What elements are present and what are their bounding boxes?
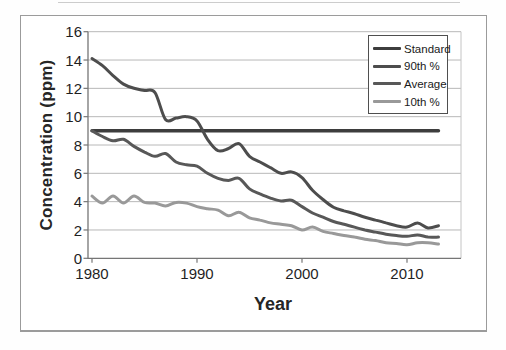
legend-line-sample-10th-: [373, 100, 401, 103]
x-tick-label-2000: 2000: [272, 265, 332, 282]
y-tick-label-12: 12: [42, 80, 82, 97]
y-tick-label-6: 6: [42, 165, 82, 182]
x-tick-label-1980: 1980: [62, 265, 122, 282]
legend-line-sample-standard: [373, 47, 401, 50]
x-tick-label-2010: 2010: [377, 265, 437, 282]
legend-label-standard: Standard: [404, 43, 451, 55]
y-tick-label-10: 10: [42, 108, 82, 125]
legend-row-standard: Standard: [369, 40, 447, 58]
legend: Standard90th %Average10th %: [368, 35, 448, 114]
legend-line-sample-90th-: [373, 65, 401, 68]
x-tick-label-1990: 1990: [167, 265, 227, 282]
legend-label-average: Average: [404, 78, 447, 90]
y-tick-label-8: 8: [42, 137, 82, 154]
legend-line-sample-average: [373, 82, 401, 85]
y-tick-label-16: 16: [42, 23, 82, 40]
legend-label-10th-: 10th %: [404, 96, 440, 108]
legend-row-90th-: 90th %: [369, 58, 447, 76]
x-axis-title-text: Year: [254, 294, 292, 315]
legend-label-90th-: 90th %: [404, 60, 440, 72]
y-tick-label-2: 2: [42, 222, 82, 239]
y-tick-label-4: 4: [42, 193, 82, 210]
series-line-10th-: [92, 196, 439, 245]
legend-row-10th-: 10th %: [369, 93, 447, 111]
chart-screenshot: { "figure": { "y_axis_title": "Concentra…: [0, 0, 506, 350]
y-tick-label-14: 14: [42, 52, 82, 69]
legend-row-average: Average: [369, 75, 447, 93]
